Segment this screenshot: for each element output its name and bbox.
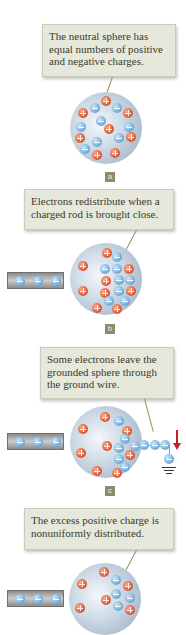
positive-charge — [110, 148, 120, 158]
negative-charge — [114, 443, 124, 453]
sphere-d — [69, 563, 141, 635]
negative-charge — [15, 276, 25, 286]
negative-charge — [114, 286, 124, 296]
negative-charge — [125, 275, 135, 285]
negative-charge — [15, 437, 25, 447]
pointer-a — [107, 77, 113, 92]
negative-charge — [33, 276, 43, 286]
positive-charge — [112, 304, 122, 314]
negative-charge — [112, 252, 122, 262]
negative-charge — [124, 122, 134, 132]
negative-charge — [51, 594, 61, 604]
positive-charge — [92, 466, 102, 476]
negative-charge — [111, 589, 121, 599]
pointer-d — [126, 550, 137, 570]
negative-charge — [113, 601, 123, 611]
positive-charge — [123, 108, 133, 118]
negative-charge — [112, 264, 122, 274]
panel-label-c: c — [105, 486, 115, 496]
negative-charge — [92, 137, 102, 147]
positive-charge — [100, 412, 110, 422]
caption-a: The neutral sphere has equal numbers of … — [42, 24, 176, 77]
charged-rod-c — [7, 433, 64, 450]
electron-flow-arrow-icon — [176, 430, 178, 444]
positive-charge — [112, 468, 122, 478]
ground-symbol-icon — [166, 473, 172, 474]
positive-charge — [75, 603, 85, 613]
negative-charge — [114, 416, 124, 426]
negative-charge — [164, 454, 174, 464]
panel-label-a: a — [105, 172, 115, 182]
negative-charge — [112, 103, 122, 113]
positive-charge — [99, 567, 109, 577]
negative-charge — [114, 133, 124, 143]
positive-charge — [102, 248, 112, 258]
positive-charge — [125, 605, 135, 615]
positive-charge — [101, 276, 111, 286]
positive-charge — [125, 450, 135, 460]
pointer-c — [144, 399, 154, 432]
positive-charge — [126, 286, 136, 296]
negative-charge — [114, 275, 124, 285]
negative-charge — [100, 264, 110, 274]
ground-symbol-icon — [162, 467, 176, 468]
electron-flow-arrowhead-icon — [173, 443, 181, 450]
positive-charge — [104, 124, 114, 134]
positive-charge — [78, 108, 88, 118]
negative-charge — [33, 437, 43, 447]
panel-label-b: b — [105, 324, 115, 334]
positive-charge — [123, 581, 133, 591]
positive-charge — [124, 264, 134, 274]
negative-charge — [76, 122, 86, 132]
positive-charge — [78, 261, 88, 271]
positive-charge — [78, 424, 88, 434]
positive-charge — [101, 96, 111, 106]
negative-charge — [15, 594, 25, 604]
negative-charge — [80, 144, 90, 154]
negative-charge — [120, 296, 130, 306]
sphere-a — [70, 92, 142, 164]
ground-symbol-icon — [164, 470, 174, 471]
negative-charge — [51, 437, 61, 447]
negative-charge — [139, 440, 149, 450]
positive-charge — [92, 303, 102, 313]
positive-charge — [92, 150, 102, 160]
sphere-b — [70, 243, 142, 315]
caption-c: Some electrons leave the grounded sphere… — [40, 347, 174, 399]
positive-charge — [78, 286, 88, 296]
positive-charge — [101, 595, 111, 605]
positive-charge — [102, 441, 112, 451]
negative-charge — [125, 593, 135, 603]
negative-charge — [51, 276, 61, 286]
charged-rod-d — [7, 590, 64, 607]
negative-charge — [33, 594, 43, 604]
negative-charge — [111, 575, 121, 585]
sphere-c — [70, 406, 142, 478]
negative-charge — [120, 434, 130, 444]
negative-charge — [90, 103, 100, 113]
charged-rod-b — [7, 272, 64, 289]
positive-charge — [126, 132, 136, 142]
caption-b: Electrons redistribute when a charged ro… — [24, 189, 174, 230]
positive-charge — [76, 448, 86, 458]
negative-charge — [150, 440, 160, 450]
caption-d: The excess positive charge is nonuniform… — [24, 508, 174, 550]
positive-charge — [75, 133, 85, 143]
positive-charge — [77, 579, 87, 589]
